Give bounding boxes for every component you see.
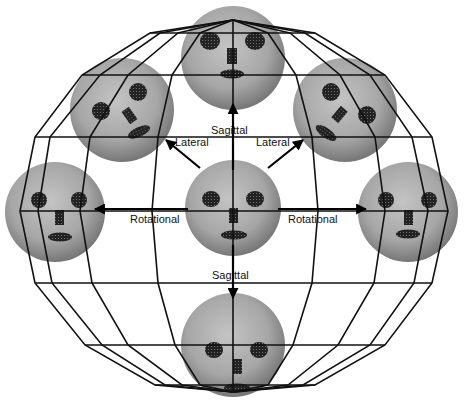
left-eye-icon	[202, 191, 220, 207]
label-sagittal-down: Sagittal	[212, 269, 249, 281]
label-lateral-left: Lateral	[175, 136, 209, 148]
nose-icon	[233, 359, 242, 374]
nose-icon	[55, 210, 64, 225]
label-rotational-right: Rotational	[288, 213, 338, 225]
label-rotational-left: Rotational	[130, 213, 180, 225]
right-eye-icon	[245, 32, 265, 50]
right-eye-icon	[71, 192, 87, 208]
left-eye-icon	[322, 83, 340, 101]
left-eye-icon	[92, 102, 110, 120]
mouth-icon	[221, 231, 247, 240]
label-sagittal-up: Sagittal	[211, 124, 248, 136]
mouth-icon	[220, 70, 244, 79]
left-eye-icon	[378, 192, 394, 208]
head-right	[358, 162, 458, 262]
label-lateral-right: Lateral	[256, 136, 290, 148]
left-eye-icon	[200, 32, 220, 50]
mouth-icon	[396, 230, 420, 239]
nose-icon	[404, 210, 413, 225]
mouth-icon	[48, 233, 72, 242]
right-eye-icon	[421, 192, 437, 208]
right-eye-icon	[129, 83, 147, 101]
right-eye-icon	[246, 191, 264, 207]
nose-icon	[227, 48, 237, 64]
head-orientation-diagram: Sagittal Lateral Lateral Rotational Rota…	[0, 0, 466, 410]
